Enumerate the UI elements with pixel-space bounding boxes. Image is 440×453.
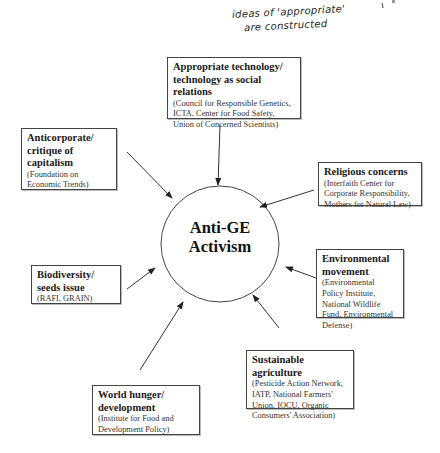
node-appropriate-technology: Appropriate technology/ technology as so… <box>167 57 301 119</box>
node-title: Appropriate technology/ technology as so… <box>173 61 295 99</box>
center-label-line2: Activism <box>162 237 278 256</box>
node-orgs: (Council for Responsible Genetics, ICTA,… <box>173 99 295 131</box>
node-orgs: (Pesticide Action Network, IATP, Nationa… <box>252 379 348 422</box>
annotation-pointer <box>382 3 383 8</box>
node-biodiversity: Biodiversity/ seeds issue (RAFI, GRAIN) <box>31 265 121 304</box>
node-title: Sustainable agriculture <box>252 354 348 379</box>
node-orgs: (Foundation on Economic Trends) <box>27 170 111 192</box>
node-title: Biodiversity/ seeds issue <box>37 269 115 294</box>
node-environmental-movement: Environmental movement (Environmental Po… <box>316 249 404 318</box>
node-orgs: (Institute for Food and Development Poli… <box>98 414 194 436</box>
arrow-anticorporate <box>127 152 172 198</box>
arrow-sustainable <box>253 295 279 328</box>
node-title: Anticorporate/ critique of capitalism <box>27 132 111 170</box>
node-orgs: (Interfaith Center for Corporate Respons… <box>324 179 416 211</box>
node-world-hunger: World hunger/ development (Institute for… <box>92 385 200 435</box>
node-title: Religious concerns <box>324 166 416 179</box>
arrow-world-hunger <box>140 302 183 370</box>
node-orgs: (RAFI, GRAIN) <box>37 294 115 305</box>
arrow-religious <box>260 190 314 207</box>
node-orgs: (Environmental Policy Institute, Nationa… <box>322 278 398 332</box>
arrow-biodiversity <box>127 268 155 289</box>
center-label-line1: Anti-GE <box>162 218 278 237</box>
node-anticorporate: Anticorporate/ critique of capitalism (F… <box>21 128 117 190</box>
arrow-environmental <box>286 267 316 278</box>
center-label: Anti-GE Activism <box>162 218 278 256</box>
arrow-appropriate-technology <box>218 125 220 185</box>
node-sustainable-agriculture: Sustainable agriculture (Pesticide Actio… <box>246 350 354 409</box>
node-title: Environmental movement <box>322 253 398 278</box>
node-religious-concerns: Religious concerns (Interfaith Center fo… <box>318 162 422 206</box>
node-title: World hunger/ development <box>98 389 194 414</box>
corner-mark <box>392 0 395 3</box>
